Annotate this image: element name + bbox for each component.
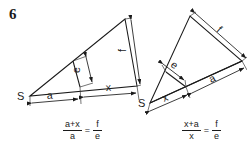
left-dim-line-x xyxy=(84,93,136,97)
right-triangle-outline xyxy=(150,16,242,103)
left-formula-rhs-fraction: f e xyxy=(93,120,102,141)
left-ext-e-bottom xyxy=(80,83,93,87)
right-formula-rhs-denominator: e xyxy=(212,130,221,141)
left-formula-equals: = xyxy=(85,126,90,135)
left-inner-height-segment xyxy=(73,61,80,87)
figure-page: 6 a x e f xyxy=(0,0,247,148)
left-label-e: e xyxy=(70,67,82,73)
left-label-x: x xyxy=(105,81,112,93)
left-ext-f-top xyxy=(125,18,132,19)
left-formula-denominator: a xyxy=(63,130,82,141)
figure-number: 6 xyxy=(9,6,17,22)
left-label-a: a xyxy=(46,89,53,101)
left-triangle-group: a x e f S xyxy=(17,18,141,106)
right-ext-f-top xyxy=(190,12,196,16)
right-formula-lhs-fraction: x+a x xyxy=(182,120,201,141)
right-formula-equals: = xyxy=(204,126,209,135)
right-vertex-label-s: S xyxy=(138,97,145,109)
left-formula-rhs-denominator: e xyxy=(93,130,102,141)
right-formula-denominator: x xyxy=(182,130,201,141)
left-ext-e-top xyxy=(73,56,87,61)
right-label-x: x xyxy=(160,90,170,103)
left-dim-line-a xyxy=(32,99,78,103)
left-ext-tick-mid xyxy=(80,87,81,104)
left-formula-lhs-fraction: a+x a xyxy=(63,120,82,141)
right-formula-rhs-fraction: f e xyxy=(212,120,221,141)
right-formula-numerator: x+a xyxy=(182,120,201,130)
left-dim-line-e xyxy=(86,57,92,82)
left-formula-numerator: a+x xyxy=(63,120,82,130)
right-formula-rhs-numerator: f xyxy=(213,120,220,130)
right-ext-tick-S xyxy=(147,103,150,114)
right-triangle-group: x a e f S xyxy=(138,12,247,114)
right-ext-tick-mid xyxy=(186,87,190,98)
right-dim-line-f xyxy=(195,13,246,58)
right-formula: x+a x = f e xyxy=(182,120,221,141)
right-label-f: f xyxy=(215,23,225,34)
left-ext-f-bottom xyxy=(137,85,141,86)
left-dim-line-f xyxy=(131,20,140,84)
left-vertex-label-s: S xyxy=(17,90,24,102)
left-label-f: f xyxy=(116,49,128,52)
right-dim-line-x xyxy=(150,95,187,111)
left-formula: a+x a = f e xyxy=(63,120,102,141)
right-label-e: e xyxy=(169,58,181,71)
left-formula-rhs-numerator: f xyxy=(94,120,101,130)
right-ext-f-bottom xyxy=(242,57,247,61)
